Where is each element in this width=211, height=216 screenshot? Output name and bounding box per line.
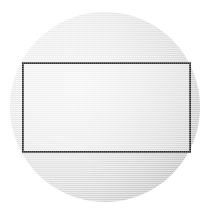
geometry-figure	[0, 0, 211, 216]
figure-canvas	[0, 0, 211, 216]
rectangle-shape	[23, 63, 190, 152]
rectangle-fill	[23, 63, 190, 152]
